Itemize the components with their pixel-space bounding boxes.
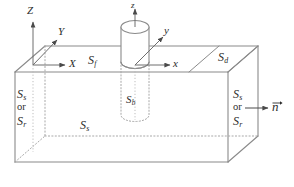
right-face-bottom-slant	[228, 136, 258, 162]
global-axis-y-label: Y	[58, 26, 64, 37]
sd-separator-left	[189, 46, 219, 72]
dashpot-surface-subscript: d	[224, 56, 228, 65]
normal-vector-label: n	[272, 100, 279, 113]
pile-above-ground	[121, 21, 149, 69]
right-face-primary-label: Ss	[233, 88, 242, 100]
soil-body-label: Ss	[80, 119, 89, 131]
right-face-boundary-labels: Ss or Sr	[233, 88, 242, 127]
pile-surface-symbol: S	[126, 93, 132, 105]
top-edge-left-slant	[15, 46, 45, 72]
global-axis-x-label: X	[69, 58, 76, 69]
pile-surface-label: Sb	[126, 94, 135, 105]
left-face-secondary-subscript: r	[23, 120, 26, 129]
left-face-conjunction-label: or	[17, 102, 26, 113]
global-axis-z-label: Z	[27, 5, 33, 16]
right-face-secondary-label: Sr	[233, 115, 242, 127]
vector-overbar-arrow-icon	[272, 100, 283, 106]
diagram-vector-graphics	[0, 0, 294, 187]
diagram-canvas: Z Y X z y x Sf Sd Ss Sb Ss or Sr Ss or S…	[0, 0, 294, 187]
sd-separator-right	[228, 46, 258, 72]
free-surface-label: Sf	[88, 54, 96, 66]
dashpot-surface-label: Sd	[218, 51, 228, 63]
pile-surface-subscript: b	[132, 99, 136, 107]
right-face-secondary-subscript: r	[239, 120, 242, 129]
local-axis-y-label: y	[164, 25, 169, 36]
left-face-primary-label: Ss	[17, 88, 26, 100]
hidden-edge-bottom-left-slant	[15, 136, 45, 162]
soil-body-subscript: s	[86, 124, 89, 133]
local-axis-z-label: z	[131, 1, 135, 10]
left-face-secondary-label: Sr	[17, 115, 26, 127]
right-face-conjunction-label: or	[233, 102, 242, 113]
left-face-boundary-labels: Ss or Sr	[17, 88, 26, 127]
local-axis-x-label: x	[173, 58, 178, 69]
